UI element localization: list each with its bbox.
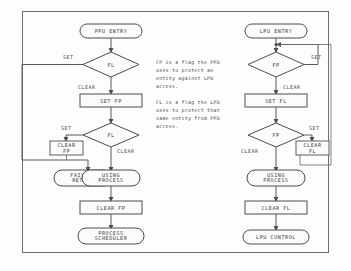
lpu-d1-set-label: SET [311,54,322,60]
ppu-decision-2-label: FL [107,132,114,138]
lpu-set-fl-label: SET FL [265,98,287,104]
note-1-line-3: entity against LPU [156,75,214,82]
lpu-decision-1-label: FP [272,62,279,68]
lpu-decision-2-label: FP [272,132,279,138]
flowchart-canvas: PPU ENTRY FL SET CLEAR SET FP FL SET CLE… [0,0,351,271]
ppu-d2-set-label: SET [61,125,72,131]
ppu-d1-clear-label: CLEAR [78,84,96,90]
note-2-line-1: FL is a flag the LPU [156,99,220,106]
note-2-line-4: access. [156,123,178,129]
lpu-using-process-label-2: PROCESS [263,177,288,183]
ppu-d2-clear-label: CLEAR [117,148,135,154]
ppu-entry-label: PPU ENTRY [95,28,128,34]
note-2-line-2: uses to protect that [156,107,220,114]
lpu-d2-clear-label: CLEAR [241,148,259,154]
ppu-set-fp-label: SET FP [100,98,122,104]
note-1-line-1: FP is a flag the PPU [156,59,220,66]
edge-lpu-d2-set-to-clearfl [304,135,312,140]
ppu-clear-fp-2-label: CLEAR FP [97,205,126,211]
ppu-d1-set-label: SET [63,54,74,60]
lpu-d1-clear-label: CLEAR [283,84,301,90]
ppu-using-process-label-2: PROCESS [98,177,123,183]
ppu-clear-fp-label-2: FP [63,148,70,154]
ppu-decision-1-label: FL [107,62,114,68]
edge-ppu-d2-set-to-clearfp [66,135,83,140]
lpu-clear-fl-label-2: FL [309,148,316,154]
lpu-d2-set-label: SET [309,125,320,131]
ppu-process-scheduler-label-2: SCHEDULER [95,235,128,241]
note-2-line-3: same entity from PPU [156,115,220,122]
lpu-entry-label: LPU ENTRY [260,28,293,34]
lpu-clear-fl-2-label: CLEAR FL [262,205,291,211]
lpu-control-label: LPU CONTROL [256,234,296,240]
note-1-line-2: uses to protect an [156,67,214,74]
diagram-page: PPU ENTRY FL SET CLEAR SET FP FL SET CLE… [0,0,351,271]
lpu-junction-dot [275,43,278,46]
note-1-line-4: access. [156,83,178,89]
